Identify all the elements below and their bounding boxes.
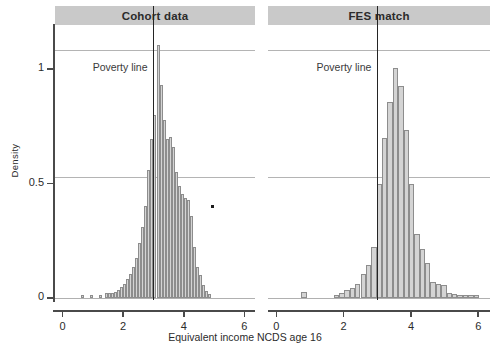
x-axis-tick xyxy=(276,310,278,317)
x-axis-tick xyxy=(244,310,246,317)
baseline-y-0 xyxy=(55,298,255,299)
histogram-bar xyxy=(474,295,479,298)
histogram-bar xyxy=(334,295,339,298)
plot-panel-fes-match: Poverty line xyxy=(268,28,490,298)
plot-panel-cohort-data: Poverty line xyxy=(55,28,255,298)
x-axis-tick xyxy=(410,310,412,317)
y-axis-tick-label: 0.5 xyxy=(0,176,44,188)
baseline-y-0-right xyxy=(268,298,490,299)
histogram-figure: Cohort data FES match Poverty line Pover… xyxy=(0,0,490,349)
scan-speck-artifact xyxy=(211,205,214,208)
x-axis-title: Equivalent income NCDS age 16 xyxy=(0,331,490,343)
y-axis-tick xyxy=(47,183,54,185)
x-axis-tick xyxy=(477,310,479,317)
panel-title-cohort-data: Cohort data xyxy=(55,6,255,25)
y-axis-line xyxy=(53,24,55,302)
x-axis-tick xyxy=(183,310,185,317)
panel-title-fes-match-label: FES match xyxy=(348,10,409,22)
x-axis-tick xyxy=(122,310,124,317)
x-axis-line-fes-match xyxy=(268,310,490,312)
poverty-line-cohort-data xyxy=(153,6,154,300)
histogram-bar xyxy=(99,295,102,298)
panel-title-fes-match: FES match xyxy=(268,6,490,25)
poverty-line-label-cohort-data: Poverty line xyxy=(34,61,148,73)
poverty-line-fes-match xyxy=(377,6,378,300)
x-axis-tick xyxy=(62,310,64,317)
x-axis-line-cohort-data xyxy=(53,310,255,312)
y-axis-tick-label: 1 xyxy=(0,61,44,73)
y-axis-tick xyxy=(47,297,54,299)
x-axis-tick xyxy=(343,310,345,317)
y-axis-tick xyxy=(47,68,54,70)
histogram-bar xyxy=(301,292,306,298)
y-axis-tick-label: 0 xyxy=(0,290,44,302)
panel-title-cohort-data-label: Cohort data xyxy=(122,10,189,22)
histogram-bar xyxy=(208,294,211,298)
poverty-line-label-fes-match: Poverty line xyxy=(257,61,371,73)
histogram-bar xyxy=(90,295,93,298)
histogram-bar xyxy=(81,295,84,298)
